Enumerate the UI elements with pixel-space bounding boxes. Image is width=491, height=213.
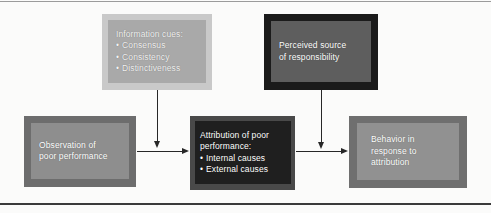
node-observation-panel: Observation of poor performance <box>31 123 129 179</box>
arrowhead-perceived-source-to-behavior <box>318 142 324 149</box>
connector-observation-to-attribution <box>137 151 183 152</box>
observation-line-1: Observation of <box>39 140 123 152</box>
connector-attribution-to-behavior <box>296 151 342 152</box>
information-cues-bullet-consistency: Consistency <box>116 52 200 64</box>
arrowhead-attribution-to-behavior <box>341 148 348 154</box>
attribution-flow-diagram: Information cues: Consensus Consistency … <box>0 0 491 213</box>
arrowhead-observation-to-attribution <box>182 148 189 154</box>
behavior-line-3: attribution <box>371 157 453 169</box>
behavior-line-1: Behavior in <box>371 134 453 146</box>
node-behavior-in-response-to-attribution: Behavior in response to attribution <box>349 116 467 188</box>
information-cues-bullet-consensus: Consensus <box>116 40 200 52</box>
node-perceived-source-panel: Perceived source of responsibility <box>271 21 371 82</box>
arrowhead-information-cues-to-attribution <box>154 141 160 148</box>
node-perceived-source-of-responsibility: Perceived source of responsibility <box>264 14 378 90</box>
node-information-cues-panel: Information cues: Consensus Consistency … <box>108 20 206 83</box>
behavior-line-2: response to <box>371 146 453 158</box>
node-information-cues: Information cues: Consensus Consistency … <box>102 14 212 90</box>
attribution-bullet-external-causes: External causes <box>200 164 288 176</box>
attribution-bullet-internal-causes: Internal causes <box>200 153 288 165</box>
node-attribution-panel: Attribution of poor performance: Interna… <box>195 121 291 184</box>
node-attribution-of-poor-performance: Attribution of poor performance: Interna… <box>190 116 295 190</box>
node-observation-of-poor-performance: Observation of poor performance <box>24 116 136 187</box>
node-behavior-panel: Behavior in response to attribution <box>357 123 459 180</box>
attribution-line-2: performance: <box>200 141 288 153</box>
connector-perceived-source-to-behavior <box>321 90 322 143</box>
perceived-source-line-1: Perceived source <box>279 40 365 52</box>
information-cues-heading: Information cues: <box>116 29 200 41</box>
perceived-source-line-2: of responsibility <box>279 52 365 64</box>
observation-line-2: poor performance <box>39 151 123 163</box>
top-divider-rule <box>0 1 491 2</box>
information-cues-bullet-distinctiveness: Distinctiveness <box>116 63 200 75</box>
connector-information-cues-to-attribution <box>157 90 158 142</box>
attribution-line-1: Attribution of poor <box>200 130 288 142</box>
bottom-divider-rule <box>0 203 491 205</box>
